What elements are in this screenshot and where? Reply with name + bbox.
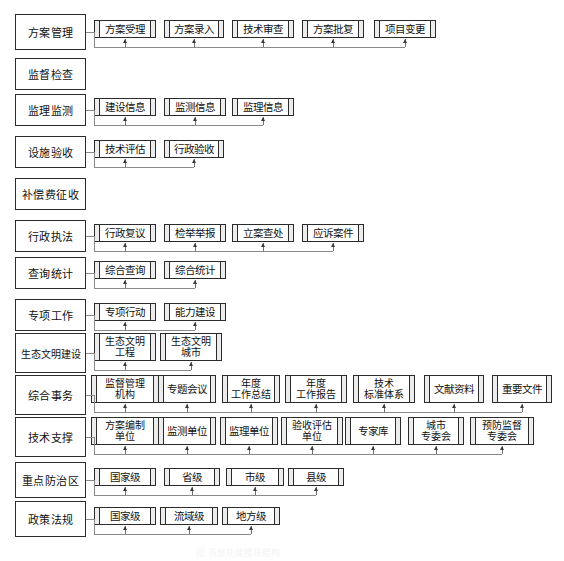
function-node[interactable]: 重要文件 <box>492 375 552 403</box>
function-node[interactable]: 监测单位 <box>158 417 216 445</box>
node-right-rail <box>358 21 363 37</box>
node-right-rail <box>288 21 293 37</box>
connector-stub <box>86 353 94 354</box>
arrow-head-icon <box>123 243 127 247</box>
function-node-label: 县级 <box>294 469 338 485</box>
category-box-11[interactable]: 技术支撑 <box>15 417 86 457</box>
function-node[interactable]: 年度 工作报告 <box>285 375 347 403</box>
function-node[interactable]: 方案录入 <box>164 20 224 38</box>
category-box-1[interactable]: 方案管理 <box>15 14 86 50</box>
category-box-7[interactable]: 查询统计 <box>15 257 86 289</box>
function-node[interactable]: 项目变更 <box>374 20 436 38</box>
function-node-label: 行政复议 <box>100 225 150 241</box>
function-node[interactable]: 技术评估 <box>94 140 156 158</box>
function-node[interactable]: 县级 <box>288 468 344 486</box>
function-node[interactable]: 流域级 <box>160 507 218 525</box>
function-node[interactable]: 专项行动 <box>94 303 156 321</box>
connector-drop <box>94 315 95 330</box>
connector-drop <box>94 519 95 534</box>
function-node[interactable]: 能力建设 <box>164 303 226 321</box>
arrow-head-icon <box>520 404 524 408</box>
function-node[interactable]: 监理单位 <box>220 417 278 445</box>
connector-bus <box>94 330 195 331</box>
function-node[interactable]: 技术 标准体系 <box>353 375 415 403</box>
function-node[interactable]: 专题会议 <box>158 375 216 403</box>
function-node[interactable]: 建设信息 <box>94 98 156 116</box>
function-node[interactable]: 年度 工作总结 <box>222 375 280 403</box>
function-node-label: 综合统计 <box>170 262 220 278</box>
function-node[interactable]: 预防监督 专委会 <box>470 417 534 445</box>
category-box-12[interactable]: 重点防治区 <box>15 462 86 498</box>
function-node[interactable]: 技术审查 <box>232 20 294 38</box>
category-box-6[interactable]: 行政执法 <box>15 220 86 252</box>
function-node[interactable]: 综合查询 <box>94 261 156 279</box>
function-node-label: 监测信息 <box>170 99 220 115</box>
category-label: 综合事务 <box>28 387 74 403</box>
function-node[interactable]: 方案受理 <box>94 20 156 38</box>
function-node[interactable]: 生态文明 城市 <box>160 333 222 361</box>
category-box-5[interactable]: 补偿费征收 <box>15 178 86 210</box>
function-node[interactable]: 国家级 <box>94 507 156 525</box>
category-box-3[interactable]: 监理监测 <box>15 94 86 126</box>
category-box-9[interactable]: 生态文明建设 <box>15 333 86 373</box>
category-label: 行政执法 <box>28 228 74 244</box>
category-box-8[interactable]: 专项工作 <box>15 299 86 331</box>
function-node[interactable]: 监理信息 <box>232 98 294 116</box>
function-node[interactable]: 监督管理 机构 <box>91 375 159 403</box>
function-node-label: 技术评估 <box>100 141 150 157</box>
connector-drop <box>94 273 95 288</box>
function-node[interactable]: 行政验收 <box>164 140 224 158</box>
connector-bus <box>94 495 316 496</box>
function-node-label: 检举举报 <box>170 225 220 241</box>
category-box-10[interactable]: 综合事务 <box>15 375 86 415</box>
arrow-head-icon <box>249 526 253 530</box>
function-node[interactable]: 省级 <box>164 468 220 486</box>
function-node[interactable]: 生态文明 工程 <box>94 333 156 361</box>
category-box-13[interactable]: 政策法规 <box>15 501 86 537</box>
function-node[interactable]: 方案批复 <box>302 20 364 38</box>
connector-stub <box>86 110 94 111</box>
function-node[interactable]: 行政复议 <box>94 224 156 242</box>
connector-bus <box>94 167 194 168</box>
function-node[interactable]: 检举举报 <box>164 224 226 242</box>
function-node-label: 建设信息 <box>100 99 150 115</box>
category-box-2[interactable]: 监督检查 <box>15 58 86 90</box>
node-right-rail <box>150 141 155 157</box>
arrow-head-icon <box>314 404 318 408</box>
function-node[interactable]: 专家库 <box>345 417 401 445</box>
function-node[interactable]: 应诉案件 <box>302 224 364 242</box>
function-node[interactable]: 立案查处 <box>232 224 294 242</box>
function-node-label: 预防监督 专委会 <box>476 418 528 444</box>
function-node[interactable]: 国家级 <box>94 468 156 486</box>
connector-bus <box>94 251 333 252</box>
node-right-rail <box>409 376 414 402</box>
node-right-rail <box>210 376 215 402</box>
arrow-head-icon <box>247 446 251 450</box>
node-right-rail <box>338 469 343 485</box>
function-node[interactable]: 城市 专委会 <box>408 417 464 445</box>
function-node[interactable]: 综合统计 <box>164 261 226 279</box>
category-label: 技术支撑 <box>28 429 74 445</box>
category-box-4[interactable]: 设施验收 <box>15 136 86 168</box>
node-right-rail <box>150 304 155 320</box>
function-node-label: 国家级 <box>100 469 150 485</box>
node-right-rail <box>288 225 293 241</box>
connector-bus <box>94 288 195 289</box>
connector-drop <box>94 437 95 454</box>
arrow-head-icon <box>500 446 504 450</box>
function-node[interactable]: 文献资料 <box>424 375 484 403</box>
function-node-label: 技术 标准体系 <box>359 376 409 402</box>
function-node[interactable]: 验收评估 单位 <box>281 417 343 445</box>
connector-stub <box>86 236 94 237</box>
function-node[interactable]: 方案编制 单位 <box>91 417 159 445</box>
function-node-label: 技术审查 <box>238 21 288 37</box>
arrow-head-icon <box>452 404 456 408</box>
function-node[interactable]: 地方级 <box>222 507 280 525</box>
function-node[interactable]: 市级 <box>226 468 284 486</box>
arrow-head-icon <box>253 487 257 491</box>
node-right-rail <box>150 99 155 115</box>
connector-drop <box>94 395 95 412</box>
function-node[interactable]: 监测信息 <box>164 98 226 116</box>
function-node-label: 应诉案件 <box>308 225 358 241</box>
connector-bus <box>94 412 522 413</box>
